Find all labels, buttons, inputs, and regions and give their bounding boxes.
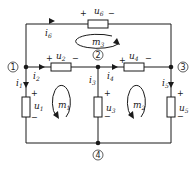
node-3-label: 3	[178, 62, 188, 72]
mesh-label-m1: m1	[58, 100, 70, 111]
resistor-2	[51, 63, 71, 71]
mesh-loop-m1: m1	[52, 85, 70, 119]
node-2-label: 2	[93, 50, 103, 60]
mesh-loop-m2: m2	[127, 85, 145, 119]
voltage-label-u4: u4	[129, 51, 139, 62]
plus-sign-u5: +	[177, 89, 184, 98]
mesh-arrow-m3	[113, 38, 120, 45]
current-label-i4: i4	[107, 71, 114, 82]
minus-sign-u4: −	[145, 54, 152, 63]
current-arrow-i2	[39, 64, 45, 70]
svg-text:3: 3	[180, 63, 185, 72]
current-arrow-i4	[112, 64, 118, 70]
node-4-label: 4	[93, 150, 103, 160]
minus-sign-u5: −	[177, 112, 184, 121]
mesh-loop-m3: m3	[76, 34, 120, 48]
plus-sign-u2: +	[46, 54, 53, 63]
current-label-i6: i6	[45, 28, 52, 39]
resistor-4	[124, 63, 144, 71]
svg-text:4: 4	[95, 151, 100, 160]
voltage-label-u6: u6	[94, 6, 104, 17]
mesh-label-m2: m2	[133, 100, 146, 111]
node-1-dot	[24, 65, 29, 70]
mesh-label-m3: m3	[92, 37, 105, 48]
current-arrow-i1	[23, 82, 29, 88]
minus-sign-u2: −	[72, 54, 79, 63]
current-label-i3: i3	[89, 75, 96, 86]
node-1-label: 1	[8, 62, 18, 72]
resistor-1	[22, 97, 30, 117]
plus-sign-u4: +	[119, 56, 126, 65]
node-4-dot	[96, 141, 101, 146]
current-arrow-i5	[168, 82, 174, 88]
plus-sign-u1: +	[31, 89, 38, 98]
voltage-label-u1: u1	[34, 101, 44, 112]
current-arrow-i6	[49, 18, 55, 24]
minus-sign-u1: −	[31, 113, 38, 122]
resistor-5	[167, 97, 175, 117]
resistor-3	[94, 97, 102, 117]
node-2-dot	[96, 65, 101, 70]
voltage-label-u2: u2	[56, 51, 66, 62]
minus-sign-u3: −	[104, 112, 111, 121]
svg-text:2: 2	[95, 51, 100, 60]
node-3-dot	[169, 65, 174, 70]
current-label-i5: i5	[162, 78, 169, 89]
current-label-i2: i2	[33, 71, 40, 82]
resistor-6	[88, 20, 108, 28]
plus-sign-u6: +	[80, 9, 87, 18]
minus-sign-u6: −	[108, 9, 115, 18]
svg-text:1: 1	[10, 63, 15, 72]
plus-sign-u3: +	[104, 89, 111, 98]
circuit-diagram: 1 2 3 4 i6 i2 i4 i1 i3 i5 + u6 − + u2 − …	[0, 0, 195, 169]
current-label-i1: i1	[16, 78, 23, 89]
